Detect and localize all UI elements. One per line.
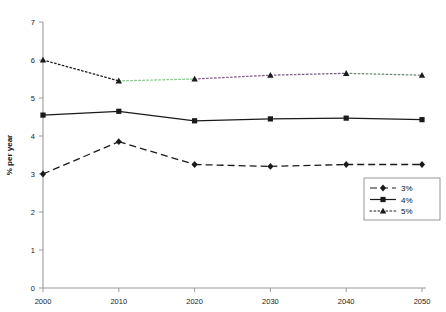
series-3pct [40, 138, 425, 177]
x-tick-label: 2050 [414, 297, 431, 306]
axes: 01234567200020102020203020402050 [31, 18, 431, 306]
data-point-marker [116, 109, 121, 114]
chart-container: 01234567200020102020203020402050 3%4%5% … [0, 0, 446, 312]
series-segment [119, 111, 195, 121]
series-segment [119, 142, 195, 165]
y-tick-label: 5 [31, 94, 35, 103]
series-segment [119, 79, 195, 81]
y-axis-title: % per year [5, 135, 14, 175]
series-segment [195, 119, 271, 121]
x-tick-label: 2000 [35, 297, 52, 306]
x-tick-label: 2030 [262, 297, 279, 306]
series-4pct [40, 109, 424, 124]
series-segment [43, 142, 119, 174]
y-tick-label: 3 [31, 170, 35, 179]
series-segment [346, 118, 422, 120]
axis-labels: % per year [5, 135, 14, 175]
data-point-marker [192, 161, 198, 168]
series-segment [43, 60, 119, 81]
data-point-marker [116, 138, 122, 145]
series-5pct [40, 57, 425, 84]
data-point-marker [343, 161, 349, 168]
y-tick-label: 2 [31, 208, 35, 217]
data-point-marker [267, 163, 273, 170]
data-point-marker [419, 161, 425, 168]
y-tick-label: 0 [31, 284, 35, 293]
series-segment [43, 111, 119, 115]
data-point-marker [419, 117, 424, 122]
data-point-marker [40, 113, 45, 118]
line-chart: 01234567200020102020203020402050 3%4%5% … [0, 0, 446, 312]
legend-label: 4% [401, 196, 413, 205]
series-segment [270, 118, 346, 119]
data-point-marker [268, 116, 273, 121]
series-segment [195, 75, 271, 79]
y-tick-label: 7 [31, 18, 35, 27]
data-point-marker [344, 116, 349, 121]
data-point-marker [192, 118, 197, 123]
x-tick-label: 2020 [186, 297, 203, 306]
data-series-layer [40, 57, 425, 178]
x-tick-label: 2040 [338, 297, 355, 306]
series-segment [270, 73, 346, 75]
data-point-marker [40, 171, 46, 178]
legend-label: 5% [401, 207, 413, 216]
series-segment [270, 165, 346, 167]
y-tick-label: 1 [31, 246, 35, 255]
series-segment [195, 165, 271, 167]
chart-legend: 3%4%5% [364, 178, 440, 220]
x-tick-label: 2010 [110, 297, 127, 306]
data-point-marker [380, 197, 385, 202]
series-segment [346, 73, 422, 75]
legend-label: 3% [401, 184, 413, 193]
y-tick-label: 4 [31, 132, 35, 141]
y-tick-label: 6 [31, 56, 35, 65]
